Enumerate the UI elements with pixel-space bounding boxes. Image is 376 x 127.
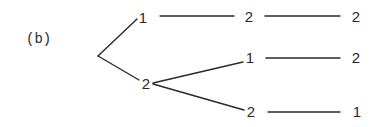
figure-caption: (b) <box>26 32 51 46</box>
edge-n2-n21 <box>153 62 243 83</box>
tree-node-n22: 2 <box>247 104 255 119</box>
tree-node-n11: 2 <box>245 9 253 24</box>
tree-node-n1: 1 <box>139 10 147 25</box>
edge-root-n1 <box>98 19 137 56</box>
tree-node-n111: 2 <box>352 9 360 24</box>
edge-root-n2 <box>98 56 139 80</box>
tree-node-n211: 2 <box>352 50 360 65</box>
edge-n2-n22 <box>153 84 244 110</box>
tree-node-n21: 1 <box>246 50 254 65</box>
tree-node-n221: 1 <box>353 104 361 119</box>
tree-node-n2: 2 <box>142 76 150 91</box>
tree-diagram: (b) 12212221 <box>0 0 376 127</box>
tree-edges <box>0 0 376 127</box>
